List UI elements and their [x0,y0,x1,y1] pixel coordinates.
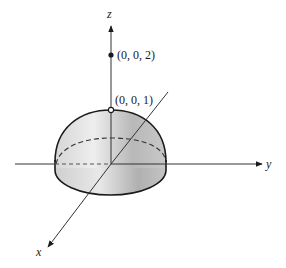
z-axis-label: z [106,7,112,21]
point-0-0-2-marker [108,52,113,57]
point-label-0-0-1: (0, 0, 1) [115,93,153,107]
point-0-0-1-marker [108,107,113,112]
hemisphere-base-front [55,164,166,195]
hemisphere-figure: z y x (0, 0, 2) (0, 0, 1) [0,0,286,268]
y-axis-label: y [265,157,272,171]
point-label-0-0-2: (0, 0, 2) [117,48,155,62]
x-axis-label: x [35,245,42,259]
